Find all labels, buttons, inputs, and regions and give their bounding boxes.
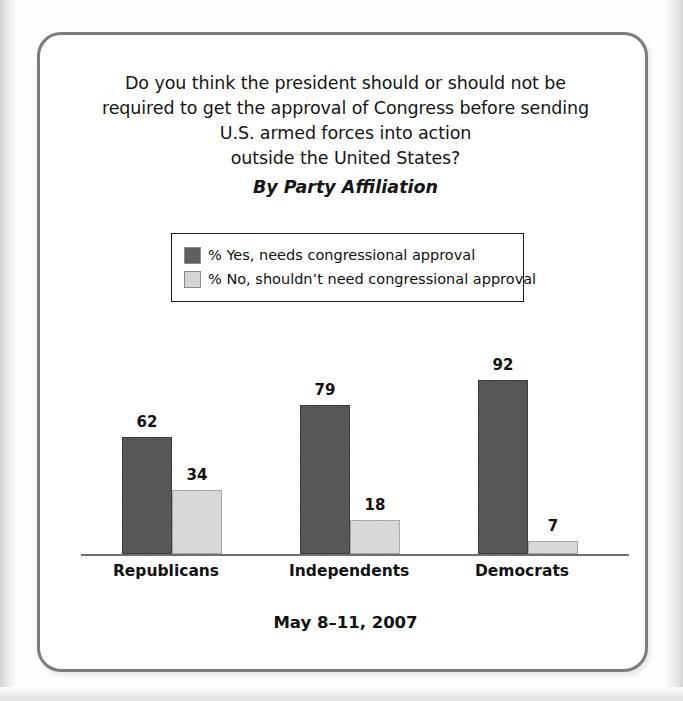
x-tick-label-independents: Independents xyxy=(289,562,399,580)
chart-title-line-3: U.S. armed forces into action xyxy=(60,121,631,146)
x-tick-label-democrats: Democrats xyxy=(467,562,577,580)
bar-pair-republicans: 62 34 xyxy=(122,437,222,554)
chart-title-line-1: Do you think the president should or sho… xyxy=(60,71,631,96)
bar-value-independents-no: 18 xyxy=(365,496,386,514)
bar-value-democrats-yes: 92 xyxy=(493,356,514,374)
bar-pair-democrats: 92 7 xyxy=(478,380,578,554)
legend-swatch-yes-icon xyxy=(184,247,201,264)
bar-independents-no[interactable]: 18 xyxy=(350,520,400,554)
page-background: Do you think the president should or sho… xyxy=(0,0,683,701)
scan-edge-left xyxy=(0,0,16,701)
chart-title-line-4: outside the United States? xyxy=(60,146,631,171)
chart-title-block: Do you think the president should or sho… xyxy=(60,71,631,199)
bar-value-republicans-no: 34 xyxy=(187,466,208,484)
bar-group-independents: 79 18 Independents xyxy=(289,335,399,554)
legend-label-no: % No, shouldn’t need congressional appro… xyxy=(208,270,536,288)
bar-value-democrats-no: 7 xyxy=(548,517,558,535)
x-tick-label-republicans: Republicans xyxy=(111,562,221,580)
legend-swatch-no-icon xyxy=(184,271,201,288)
legend-item-no: % No, shouldn’t need congressional appro… xyxy=(184,267,511,291)
scan-edge-bottom xyxy=(0,687,683,701)
bar-group-republicans: 62 34 Republicans xyxy=(111,335,221,554)
bar-republicans-yes[interactable]: 62 xyxy=(122,437,172,554)
bar-democrats-no[interactable]: 7 xyxy=(528,541,578,554)
bar-independents-yes[interactable]: 79 xyxy=(300,405,350,554)
bar-value-republicans-yes: 62 xyxy=(137,413,158,431)
bar-group-democrats: 92 7 Democrats xyxy=(467,335,577,554)
chart-footer-date: May 8–11, 2007 xyxy=(60,613,631,632)
bar-pair-independents: 79 18 xyxy=(300,405,400,554)
chart-card: Do you think the president should or sho… xyxy=(37,32,648,672)
chart-subtitle: By Party Affiliation xyxy=(60,175,631,199)
chart-legend: % Yes, needs congressional approval % No… xyxy=(171,233,524,302)
bar-value-independents-yes: 79 xyxy=(315,381,336,399)
bar-republicans-no[interactable]: 34 xyxy=(172,490,222,554)
legend-label-yes: % Yes, needs congressional approval xyxy=(208,246,475,264)
scan-edge-right xyxy=(665,0,683,701)
x-axis-line xyxy=(81,554,629,556)
chart-title-line-2: required to get the approval of Congress… xyxy=(60,96,631,121)
plot-area: 62 34 Republicans 79 18 xyxy=(81,335,629,556)
legend-item-yes: % Yes, needs congressional approval xyxy=(184,243,511,267)
bar-democrats-yes[interactable]: 92 xyxy=(478,380,528,554)
